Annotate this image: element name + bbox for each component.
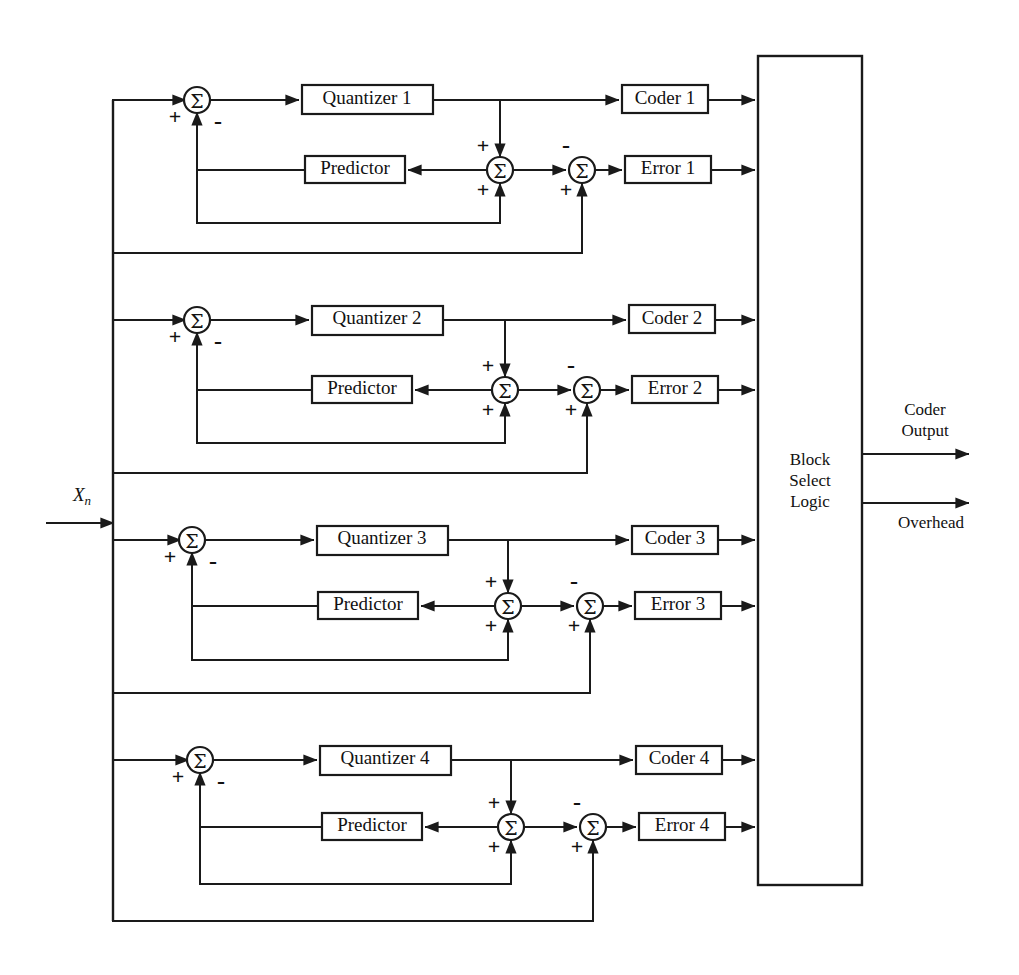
plus-sign: +: [568, 613, 581, 638]
sigma-glyph: Σ: [193, 750, 206, 772]
plus-sign: +: [488, 790, 501, 815]
plus-sign: +: [477, 177, 490, 202]
minus-sign: -: [570, 568, 578, 594]
error-label-2: Error 2: [648, 377, 702, 398]
plus-sign: +: [560, 177, 573, 202]
overhead-output-group: Overhead: [862, 503, 968, 532]
plus-sign: +: [488, 834, 501, 859]
predictor-label-2: Predictor: [327, 377, 397, 398]
coder-output-label-line1: Coder: [904, 400, 946, 419]
section-3: Σ + - Quantizer 3 Coder 3 Σ + + Predicto…: [113, 526, 754, 693]
sigma-glyph: Σ: [493, 160, 506, 182]
predictor-label-3: Predictor: [333, 593, 403, 614]
plus-sign: +: [169, 324, 182, 349]
predictor-label-1: Predictor: [320, 157, 390, 178]
plus-sign: +: [565, 397, 578, 422]
minus-sign: -: [209, 548, 217, 574]
input-label: Xn: [72, 484, 91, 508]
minus-sign: -: [214, 328, 222, 354]
coder-label-2: Coder 2: [642, 307, 703, 328]
block-select-label-line3: Logic: [790, 492, 830, 511]
input-signal-group: Xn: [47, 484, 113, 523]
error-label-3: Error 3: [651, 593, 705, 614]
section-1: Σ + - Quantizer 1 Coder 1 Σ + +: [113, 85, 754, 253]
diagram-svg: Xn Σ + - Quantizer 1 Coder: [0, 0, 1019, 975]
minus-sign: -: [567, 352, 575, 378]
sigma-glyph: Σ: [580, 380, 593, 402]
minus-sign: -: [217, 768, 225, 794]
block-diagram-canvas: Xn Σ + - Quantizer 1 Coder: [0, 0, 1019, 975]
overhead-output-label: Overhead: [898, 513, 965, 532]
coder-label-4: Coder 4: [649, 747, 710, 768]
minus-sign: -: [573, 789, 581, 815]
plus-sign: +: [482, 353, 495, 378]
coder-label-1: Coder 1: [635, 87, 696, 108]
plus-sign: +: [477, 133, 490, 158]
quantizer-label-3: Quantizer 3: [337, 527, 426, 548]
minus-sign: -: [214, 108, 222, 134]
section-4: Σ + - Quantizer 4 Coder 4 Σ + + Predicto…: [113, 746, 754, 921]
sigma-glyph: Σ: [583, 596, 596, 618]
plus-sign: +: [169, 104, 182, 129]
plus-sign: +: [482, 397, 495, 422]
block-select-logic-group[interactable]: Block Select Logic: [758, 56, 862, 885]
sigma-glyph: Σ: [504, 817, 517, 839]
coder-output-label-line2: Output: [901, 421, 949, 440]
plus-sign: +: [164, 544, 177, 569]
sigma-glyph: Σ: [185, 530, 198, 552]
block-select-label-line2: Select: [789, 471, 831, 490]
minus-sign: -: [562, 132, 570, 158]
plus-sign: +: [485, 569, 498, 594]
sigma-glyph: Σ: [586, 817, 599, 839]
sigma-glyph: Σ: [498, 380, 511, 402]
sigma-glyph: Σ: [575, 160, 588, 182]
plus-sign: +: [172, 764, 185, 789]
section-2: Σ + - Quantizer 2 Coder 2 Σ + + Predicto…: [113, 305, 754, 473]
predictor-label-4: Predictor: [337, 814, 407, 835]
quantizer-label-2: Quantizer 2: [332, 307, 421, 328]
sigma-glyph: Σ: [190, 310, 203, 332]
quantizer-label-4: Quantizer 4: [340, 747, 430, 768]
sigma-glyph: Σ: [501, 596, 514, 618]
plus-sign: +: [571, 834, 584, 859]
plus-sign: +: [485, 613, 498, 638]
block-select-label-line1: Block: [790, 450, 831, 469]
error-label-4: Error 4: [655, 814, 710, 835]
sigma-glyph: Σ: [190, 90, 203, 112]
error-label-1: Error 1: [641, 157, 695, 178]
coder-output-group: Coder Output: [862, 400, 968, 454]
coder-label-3: Coder 3: [645, 527, 706, 548]
quantizer-label-1: Quantizer 1: [322, 87, 411, 108]
